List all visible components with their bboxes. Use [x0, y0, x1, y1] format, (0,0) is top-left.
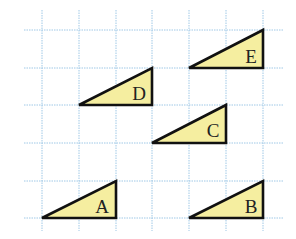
- triangle-label: E: [245, 46, 257, 67]
- triangle-a: A: [42, 181, 116, 218]
- triangle-b: B: [189, 181, 263, 218]
- triangle-label: B: [245, 196, 258, 217]
- triangle-label: C: [207, 120, 220, 141]
- grid-diagram: EDCAB: [0, 0, 296, 239]
- triangle-label: D: [132, 83, 146, 104]
- triangle-label: A: [95, 196, 109, 217]
